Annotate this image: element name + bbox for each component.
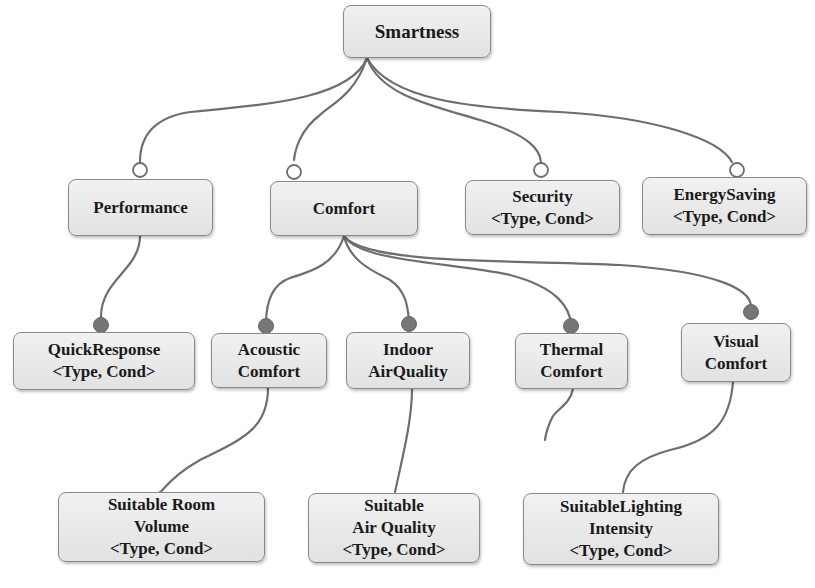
node-security: Security <Type, Cond> bbox=[465, 180, 620, 235]
optional-marker-security bbox=[534, 163, 548, 177]
optional-marker-energysaving bbox=[730, 163, 744, 177]
node-comfort: Comfort bbox=[270, 181, 418, 236]
edge-comfort-acoustic bbox=[266, 236, 344, 324]
node-label: Air Quality bbox=[352, 517, 435, 539]
edge-comfort-thermal bbox=[344, 236, 571, 324]
edge-indoor-airquality bbox=[395, 389, 412, 492]
node-performance: Performance bbox=[68, 179, 213, 236]
node-suitable-room-volume: Suitable Room Volume <Type, Cond> bbox=[58, 492, 265, 562]
node-label: Indoor bbox=[383, 339, 433, 361]
edge-comfort-visual bbox=[344, 236, 751, 306]
node-label: Security bbox=[512, 186, 572, 208]
edge-acoustic-roomvolume bbox=[160, 388, 268, 492]
node-energysaving: EnergySaving <Type, Cond> bbox=[642, 177, 807, 235]
node-attributes: <Type, Cond> bbox=[673, 206, 776, 228]
mandatory-marker-acoustic bbox=[259, 319, 274, 334]
node-label: Visual bbox=[713, 331, 759, 353]
node-suitable-lighting-intensity: SuitableLighting Intensity <Type, Cond> bbox=[523, 493, 719, 565]
node-label: Comfort bbox=[313, 198, 375, 220]
node-smartness: Smartness bbox=[343, 5, 491, 58]
edge-visual-lighting bbox=[623, 382, 733, 492]
node-attributes: <Type, Cond> bbox=[52, 361, 155, 383]
mandatory-marker-thermal bbox=[564, 319, 579, 334]
node-label: Intensity bbox=[589, 518, 653, 540]
mandatory-marker-indoor bbox=[402, 317, 417, 332]
node-label: Thermal bbox=[540, 339, 603, 361]
node-indoor-airquality: Indoor AirQuality bbox=[346, 332, 470, 389]
node-attributes: <Type, Cond> bbox=[569, 540, 672, 562]
edge-thermal-truncated bbox=[545, 389, 573, 440]
edge-comfort-indoor bbox=[344, 236, 409, 322]
edge-smartness-energysaving bbox=[367, 58, 732, 162]
optional-marker-comfort bbox=[287, 165, 301, 179]
node-label: AirQuality bbox=[368, 361, 447, 383]
node-label: Smartness bbox=[375, 21, 459, 43]
node-label: Comfort bbox=[540, 361, 602, 383]
mandatory-marker-quickresponse bbox=[94, 318, 109, 333]
edge-smartness-performance bbox=[140, 58, 367, 162]
node-label: Acoustic bbox=[238, 339, 300, 361]
optional-marker-performance bbox=[133, 163, 147, 177]
node-label: Comfort bbox=[238, 361, 300, 383]
feature-model-diagram: Smartness Performance Comfort Security <… bbox=[0, 0, 815, 588]
node-label: EnergySaving bbox=[673, 184, 775, 206]
node-label: QuickResponse bbox=[48, 339, 160, 361]
node-attributes: <Type, Cond> bbox=[342, 539, 445, 561]
node-label: Suitable Room bbox=[108, 494, 215, 516]
edge-performance-quickresponse bbox=[101, 236, 140, 318]
node-acoustic-comfort: Acoustic Comfort bbox=[211, 333, 327, 388]
node-visual-comfort: Visual Comfort bbox=[681, 323, 791, 382]
node-thermal-comfort: Thermal Comfort bbox=[515, 333, 628, 389]
node-quickresponse: QuickResponse <Type, Cond> bbox=[13, 332, 195, 390]
node-label: Suitable bbox=[364, 495, 424, 517]
node-label: SuitableLighting bbox=[560, 496, 682, 518]
node-label: Comfort bbox=[705, 353, 767, 375]
node-attributes: <Type, Cond> bbox=[110, 538, 213, 560]
node-suitable-air-quality: Suitable Air Quality <Type, Cond> bbox=[308, 493, 480, 563]
mandatory-marker-visual bbox=[744, 305, 759, 320]
node-label: Volume bbox=[134, 516, 189, 538]
node-label: Performance bbox=[93, 197, 187, 219]
node-attributes: <Type, Cond> bbox=[491, 208, 594, 230]
